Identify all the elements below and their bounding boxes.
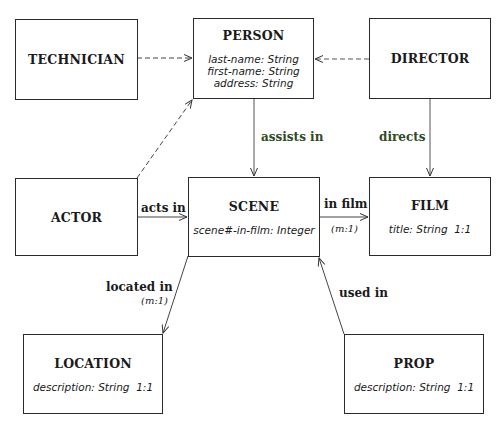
attribute: scene#-in-film: Integer [193,224,314,236]
acts-in-label: acts in [141,201,186,215]
located-in-cardinality: (m:1) [141,295,168,306]
actor-to-person-arrow [137,100,192,178]
attribute: description: String 1:1 [354,381,474,393]
attribute: description: String 1:1 [33,381,153,393]
entity-prop: PROP description: String 1:1 [344,334,484,414]
in-film-cardinality: (m:1) [331,223,358,234]
entity-location: LOCATION description: String 1:1 [23,334,163,414]
in-film-label: in film [324,197,367,211]
attribute: title: String 1:1 [389,223,471,235]
attribute: last-name: String [207,53,299,65]
entity-name: SCENE [229,199,279,214]
entity-name: PERSON [223,28,285,43]
entity-attributes: scene#-in-film: Integer [193,224,314,236]
entity-actor: ACTOR [15,178,138,256]
attribute: address: String [207,77,299,89]
directs-label: directs [379,130,426,144]
entity-technician: TECHNICIAN [15,19,138,100]
attribute: first-name: String [207,65,299,77]
entity-name: TECHNICIAN [28,52,125,67]
entity-person: PERSON last-name: String first-name: Str… [193,18,314,99]
entity-name: LOCATION [54,356,132,371]
entity-film: FILM title: String 1:1 [369,177,491,256]
assists-in-label: assists in [261,130,323,144]
entity-name: ACTOR [51,210,102,225]
entity-attributes: description: String 1:1 [33,381,153,393]
entity-name: FILM [411,198,449,213]
entity-attributes: last-name: String first-name: String add… [207,53,299,89]
entity-scene: SCENE scene#-in-film: Integer [188,177,320,257]
entity-name: DIRECTOR [391,51,470,66]
entity-name: PROP [394,356,435,371]
used-in-label: used in [339,286,388,300]
located-in-label: located in [106,280,173,294]
entity-attributes: description: String 1:1 [354,381,474,393]
entity-attributes: title: String 1:1 [389,223,471,235]
entity-director: DIRECTOR [369,18,491,99]
